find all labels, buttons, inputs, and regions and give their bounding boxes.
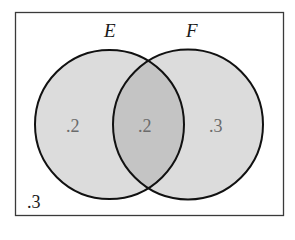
neither-value: .3 bbox=[27, 193, 41, 211]
set-e-label: E bbox=[104, 21, 116, 40]
e-only-value: .2 bbox=[66, 117, 80, 135]
e-and-f-value: .2 bbox=[138, 117, 152, 135]
f-only-value: .3 bbox=[209, 117, 223, 135]
set-f-label: F bbox=[186, 21, 198, 40]
